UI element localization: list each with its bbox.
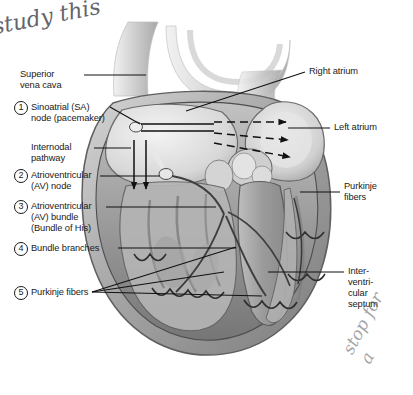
label-line: (AV) bundle [31, 212, 78, 223]
marker-3: 3 [14, 200, 28, 214]
label-line: fibers [344, 192, 366, 203]
label-line: Left atrium [334, 122, 377, 133]
label-line: node (pacemaker) [31, 113, 105, 124]
label-line: Bundle branches [31, 243, 99, 254]
label-line: (AV) node [31, 181, 71, 192]
label-line: Atrioventricular [31, 170, 91, 181]
label-line: Inter- [348, 266, 369, 277]
label-line: Internodal [31, 142, 71, 153]
marker-5: 5 [14, 286, 28, 300]
label-line: ventri- [348, 277, 373, 288]
label-line: pathway [31, 153, 65, 164]
label-line: Atrioventricular [31, 201, 91, 212]
label-line: (Bundle of His) [31, 223, 91, 234]
label-line: cular [348, 288, 368, 299]
label-line: septum [348, 299, 378, 310]
marker-4: 4 [14, 242, 28, 256]
label-line: Right atrium [309, 66, 358, 77]
marker-1: 1 [14, 101, 28, 115]
label-line: Sinoatrial (SA) [31, 102, 89, 113]
label-line: Purkinje fibers [31, 287, 88, 298]
marker-2: 2 [14, 169, 28, 183]
label-line: vena cava [20, 80, 61, 91]
label-line: Superior [20, 69, 54, 80]
label-line: Purkinje [344, 181, 377, 192]
